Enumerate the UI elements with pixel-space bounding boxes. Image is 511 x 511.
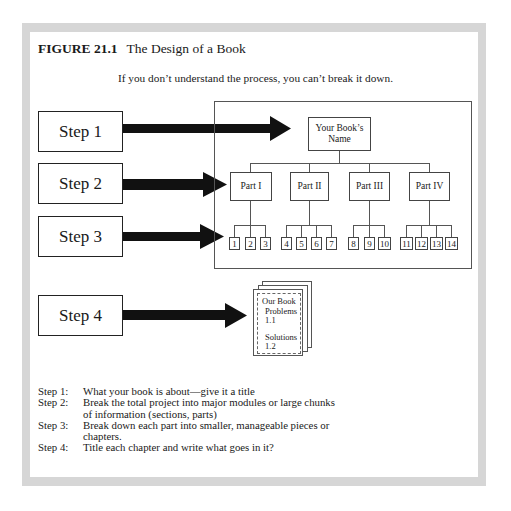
chapter-number: 6 (314, 239, 319, 249)
connector (250, 225, 251, 237)
chapter-box: 11 (400, 237, 413, 250)
connector (250, 201, 251, 225)
chapter-page-content: Our Book Problems 1.1 Solutions 1.2 (257, 293, 301, 354)
chapter-box: 2 (245, 237, 256, 250)
chapter-box: 12 (415, 237, 428, 250)
connector (369, 225, 370, 237)
legend-row: Step 4: Title each chapter and write wha… (38, 442, 343, 453)
part-label: Part III (356, 181, 383, 192)
legend-key: Step 3: (38, 420, 83, 443)
chapter-number: 14 (447, 239, 456, 249)
legend-text: Break the total project into major modul… (83, 397, 343, 420)
arrow-step-2-icon (122, 172, 227, 197)
chapter-box: 6 (311, 237, 322, 250)
connector (234, 225, 235, 237)
connector (406, 225, 407, 237)
connector (309, 163, 310, 172)
step-label: Step 3 (59, 227, 102, 247)
step-box-4: Step 4 (38, 295, 123, 336)
chapter-number: 11 (402, 239, 411, 249)
chapter-box: 14 (445, 237, 458, 250)
chapter-number: 4 (284, 239, 289, 249)
chapter-box: 1 (229, 237, 240, 250)
part-node-3: Part III (349, 172, 390, 201)
connector (286, 225, 331, 226)
part-label: Part I (241, 181, 262, 192)
part-label: Part IV (416, 181, 444, 192)
connector (316, 225, 317, 237)
chapter-number: 12 (417, 239, 426, 249)
root-line-1: Your Book’s (316, 123, 364, 133)
legend-text: Title each chapter and write what goes i… (83, 442, 343, 453)
connector (309, 201, 310, 225)
step-box-1: Step 1 (38, 111, 123, 152)
chapter-box: 13 (430, 237, 443, 250)
part-node-1: Part I (230, 172, 272, 201)
connector (331, 225, 332, 237)
connector (369, 201, 370, 225)
connector (250, 163, 251, 172)
step-label: Step 1 (59, 122, 102, 142)
step-box-2: Step 2 (38, 163, 123, 204)
chapter-box: 10 (378, 237, 391, 250)
connector (369, 163, 370, 172)
arrow-step-4-icon (122, 303, 247, 328)
root-line-2: Name (328, 134, 351, 144)
page-line: 1.2 (262, 342, 298, 352)
connector (301, 225, 302, 237)
legend-key: Step 4: (38, 442, 83, 453)
legend-row: Step 2: Break the total project into maj… (38, 397, 343, 420)
part-node-4: Part IV (409, 172, 450, 201)
arrow-step-3-icon (122, 224, 224, 249)
connector (436, 225, 437, 237)
chapter-number: 9 (367, 239, 372, 249)
root-node: Your Book’sName (308, 117, 371, 151)
step-label: Step 4 (59, 306, 102, 326)
legend-row: Step 3: Break down each part into smalle… (38, 420, 343, 443)
part-node-2: Part II (290, 172, 329, 201)
step-label: Step 2 (59, 174, 102, 194)
chapter-number: 3 (263, 239, 268, 249)
chapter-number: 10 (380, 239, 389, 249)
chapter-box: 5 (296, 237, 307, 250)
chapter-box: 8 (348, 237, 359, 250)
legend-text: Break down each part into smaller, manag… (83, 420, 343, 443)
connector (250, 163, 430, 164)
connector (429, 163, 430, 172)
page-line: 1.1 (262, 316, 298, 326)
chapter-number: 13 (432, 239, 441, 249)
connector (353, 225, 354, 237)
connector (406, 225, 451, 226)
chapter-page: Our Book Problems 1.1 Solutions 1.2 (253, 289, 303, 356)
connector (421, 225, 422, 237)
chapter-number: 1 (232, 239, 237, 249)
legend-key: Step 2: (38, 397, 83, 420)
connector (265, 225, 266, 237)
connector (429, 201, 430, 225)
chapter-number: 2 (248, 239, 253, 249)
chapter-box: 7 (326, 237, 337, 250)
connector (339, 151, 340, 163)
chapter-box: 3 (260, 237, 271, 250)
connector (286, 225, 287, 237)
connector (451, 225, 452, 237)
chapter-number: 5 (299, 239, 304, 249)
step-legend: Step 1: What your book is about—give it … (38, 386, 343, 454)
chapter-number: 8 (351, 239, 356, 249)
connector (384, 225, 385, 237)
chapter-number: 7 (329, 239, 334, 249)
part-label: Part II (297, 181, 321, 192)
step-box-3: Step 3 (38, 216, 123, 257)
chapter-box: 4 (281, 237, 292, 250)
chapter-box: 9 (364, 237, 375, 250)
